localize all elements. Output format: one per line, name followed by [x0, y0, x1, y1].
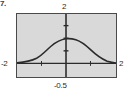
- axis-label-right: 2: [119, 59, 126, 68]
- plot-canvas: [17, 14, 116, 77]
- figure-root: 7. 2 -2 -0.5 2: [0, 0, 126, 95]
- plot-frame: [16, 13, 117, 78]
- axis-label-left: -2: [1, 59, 8, 68]
- problem-number-label: 7.: [0, 0, 6, 8]
- axis-label-bottom: -0.5: [54, 81, 67, 90]
- axis-label-top: 2: [62, 2, 66, 11]
